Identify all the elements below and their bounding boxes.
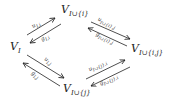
node-top-sub: I∪{i}	[69, 10, 89, 18]
node-v-i-sub: I	[18, 47, 21, 55]
node-v-i: VI	[10, 40, 21, 55]
node-v-i-union-i: VI∪{i}	[61, 3, 89, 18]
node-v-i-union-ij: VI∪{i,j}	[131, 42, 163, 57]
node-bottom-sub: I∪{j}	[71, 89, 91, 97]
node-v-i-union-j: VI∪{j}	[63, 82, 91, 97]
arrow-g-bottom-left	[23, 63, 60, 86]
node-top-main: V	[61, 3, 69, 16]
node-right-main: V	[131, 42, 139, 55]
node-right-sub: I∪{i,j}	[139, 49, 163, 57]
node-bottom-main: V	[63, 82, 71, 95]
node-v-i-main: V	[10, 40, 18, 53]
